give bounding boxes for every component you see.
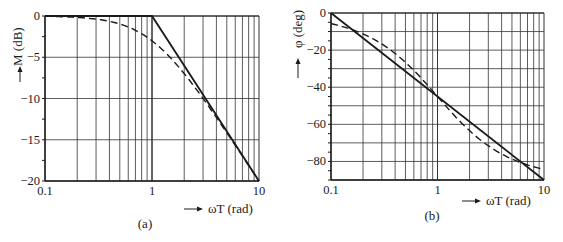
grid-lines [42,16,259,181]
arrowhead-up-icon [296,58,301,64]
y-tick-label: 0 [320,6,326,20]
y-tick-label: −60 [306,117,326,131]
caption-b: (b) [424,208,439,223]
y-tick-label: −10 [20,92,40,106]
magnitude-ylabel: M (dB) [10,27,25,82]
phase-ylabel-text: φ (deg) [290,10,305,48]
y-tick-label: −20 [306,43,326,57]
y-tick-label: −80 [306,154,326,168]
x-tick-label: 0.1 [37,184,53,198]
x-tick-label: 10 [253,184,266,198]
y-tick-label: −40 [306,80,326,94]
magnitude-xlabel: ωT (rad) [184,201,253,216]
x-tick-label: 0.1 [323,183,339,197]
x-tick-label: 1 [149,184,155,198]
arrowhead-right-icon [197,207,203,212]
phase-ylabel: φ (deg) [290,10,305,78]
arrowhead-right-icon [475,199,481,204]
phase-xlabel-text: ωT (rad) [486,193,531,208]
caption-a: (a) [138,216,152,231]
y-tick-label: −5 [27,50,40,64]
bode-figure: 0−5−10−15−200.1110 0−20−40−60−800.1110 M… [0,0,563,242]
x-tick-label: 1 [434,183,440,197]
x-tick-label: 10 [538,183,551,197]
phase-plot: 0−20−40−60−800.1110 [306,6,550,197]
magnitude-plot: 0−5−10−15−200.1110 [20,9,265,198]
y-tick-label: 0 [34,9,40,23]
y-tick-label: −15 [20,133,40,147]
phase-xlabel: ωT (rad) [462,193,531,208]
magnitude-ylabel-text: M (dB) [10,27,25,66]
magnitude-xlabel-text: ωT (rad) [208,201,253,216]
